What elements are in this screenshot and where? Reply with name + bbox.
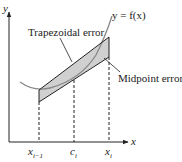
curve-label: y = f(x) — [112, 10, 146, 21]
midpoint-label: Midpoint error — [118, 73, 182, 84]
x-axis-label: x — [131, 136, 136, 147]
trapezoid-leader — [60, 38, 72, 62]
midpoint-leader — [104, 58, 120, 72]
tick-c-i: ci — [70, 146, 77, 160]
y-axis-label: y — [3, 3, 8, 14]
tick-x-i-minus-1: xi−1 — [28, 146, 43, 160]
trapezoid-label: Trapezoidal error — [28, 27, 104, 38]
tick-x-i: xi — [105, 146, 112, 160]
